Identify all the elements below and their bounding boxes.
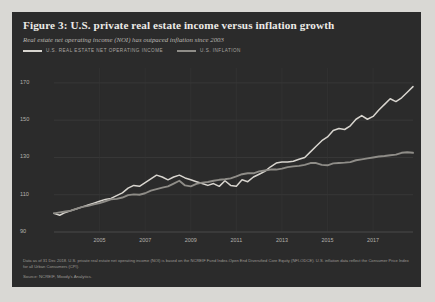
legend-label-inflation: U.S. inflation (200, 48, 241, 53)
x-axis-tick-label: 2007 (139, 237, 151, 243)
chart-legend: U.S. real estate net operating income U.… (23, 48, 241, 53)
y-axis-tick-label: 110 (20, 191, 29, 197)
line-chart-svg (12, 62, 421, 258)
chart-plot-area: 9011013015017020052007200920112013201520… (12, 62, 421, 258)
series-line-noi (54, 87, 413, 216)
legend-label-noi: U.S. real estate net operating income (46, 48, 163, 53)
x-axis-tick-label: 2017 (367, 237, 379, 243)
figure-subtitle: Real estate net operating income (NOI) h… (23, 36, 224, 43)
legend-item-noi: U.S. real estate net operating income (23, 48, 163, 53)
x-axis-tick-label: 2011 (231, 237, 243, 243)
figure-note: Data as of 31 Dec 2018. U.S. private rea… (23, 258, 411, 270)
legend-item-inflation: U.S. inflation (177, 48, 241, 53)
x-axis-tick-label: 2013 (276, 237, 288, 243)
y-axis-tick-label: 90 (20, 228, 26, 234)
legend-swatch-inflation (177, 50, 196, 52)
x-axis-tick-label: 2009 (185, 237, 197, 243)
page-title: Figure 3: U.S. private real estate incom… (23, 19, 334, 31)
figure-notes: Data as of 31 Dec 2018. U.S. private rea… (23, 258, 411, 279)
y-axis-tick-label: 130 (20, 153, 29, 159)
figure-source: Source: NCREIF, Moody's Analytics. (23, 274, 411, 279)
x-axis-tick-label: 2005 (94, 237, 106, 243)
legend-swatch-noi (23, 50, 42, 52)
y-axis-tick-label: 170 (20, 79, 29, 85)
x-axis-tick-label: 2015 (322, 237, 334, 243)
y-axis-tick-label: 150 (20, 116, 29, 122)
figure-panel: Figure 3: U.S. private real estate incom… (12, 12, 421, 287)
series-line-inflation (54, 152, 413, 213)
